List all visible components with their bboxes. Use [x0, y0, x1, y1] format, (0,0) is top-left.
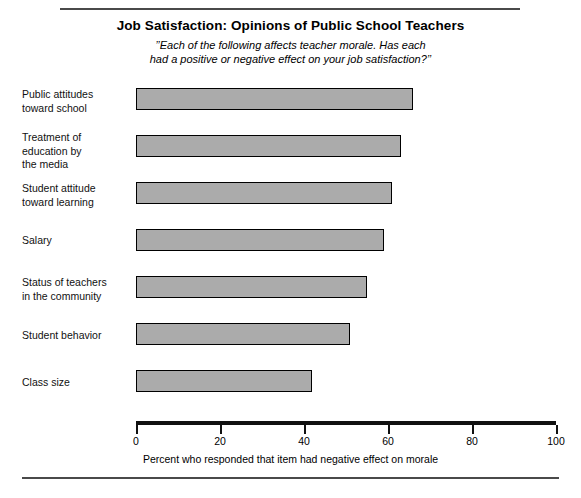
- x-axis-tick-label: 0: [116, 435, 156, 447]
- category-label-line: toward learning: [22, 196, 132, 210]
- x-axis-tick: [472, 425, 474, 434]
- bar-row: Class size: [0, 370, 581, 417]
- category-label: Student attitudetoward learning: [22, 182, 132, 209]
- x-axis-tick: [388, 425, 390, 434]
- x-axis-tick-label: 100: [536, 435, 576, 447]
- x-axis-tick: [304, 425, 306, 434]
- bar-row: Salary: [0, 229, 581, 276]
- category-label: Treatment ofeducation bythe media: [22, 131, 132, 172]
- category-label: Public attitudestoward school: [22, 88, 132, 115]
- footer-caption: [22, 488, 559, 498]
- category-label: Status of teachersin the community: [22, 276, 132, 303]
- x-axis-tick-label: 60: [368, 435, 408, 447]
- category-label: Class size: [22, 376, 132, 390]
- category-label-line: education by: [22, 145, 132, 159]
- category-label-line: Student behavior: [22, 329, 132, 343]
- x-axis-label: Percent who responded that item had nega…: [0, 453, 581, 465]
- x-axis-tick: [220, 425, 222, 434]
- category-label-line: Salary: [22, 234, 132, 248]
- x-axis-tick-label: 40: [284, 435, 324, 447]
- bar: [136, 135, 401, 157]
- bar-row: Public attitudestoward school: [0, 88, 581, 135]
- bar: [136, 323, 350, 345]
- x-axis-tick: [556, 425, 558, 434]
- bar: [136, 229, 384, 251]
- chart-figure: Job Satisfaction: Opinions of Public Sch…: [0, 0, 581, 498]
- bar: [136, 182, 392, 204]
- category-label-line: Treatment of: [22, 131, 132, 145]
- category-label: Student behavior: [22, 329, 132, 343]
- category-label-line: Status of teachers: [22, 276, 132, 290]
- bar-row: Status of teachersin the community: [0, 276, 581, 323]
- bar-row: Student behavior: [0, 323, 581, 370]
- bar-row: Student attitudetoward learning: [0, 182, 581, 229]
- bar: [136, 276, 367, 298]
- category-label-line: the media: [22, 158, 132, 172]
- bar: [136, 370, 312, 392]
- x-axis-tick-label: 20: [200, 435, 240, 447]
- bar-row: Treatment ofeducation bythe media: [0, 135, 581, 182]
- category-label-line: Class size: [22, 376, 132, 390]
- category-label-line: Public attitudes: [22, 88, 132, 102]
- x-axis-line: [136, 421, 556, 425]
- category-label: Salary: [22, 234, 132, 248]
- category-label-line: toward school: [22, 102, 132, 116]
- x-axis-tick-label: 80: [452, 435, 492, 447]
- bar: [136, 88, 413, 110]
- category-label-line: in the community: [22, 290, 132, 304]
- bottom-divider-rule: [22, 477, 559, 479]
- category-label-line: Student attitude: [22, 182, 132, 196]
- x-axis-tick: [136, 425, 138, 434]
